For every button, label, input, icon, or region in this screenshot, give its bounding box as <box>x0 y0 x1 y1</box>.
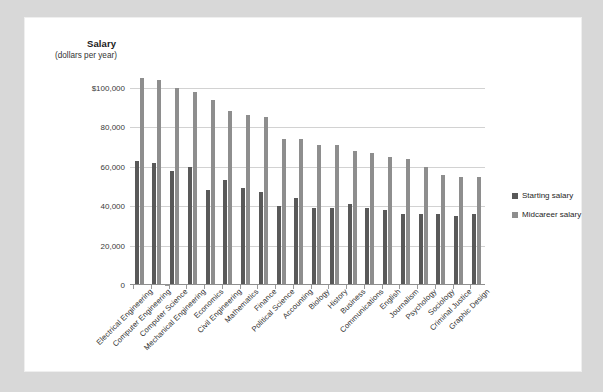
bar <box>424 167 428 285</box>
bar <box>264 117 268 285</box>
legend-item-midcareer-salary: Midcareer salary <box>512 210 603 219</box>
bar-group <box>275 68 293 285</box>
bar <box>312 208 316 285</box>
bar <box>175 88 179 285</box>
y-axis-tick-label: $100,000 <box>92 83 125 92</box>
legend-label: Starting salary <box>522 191 573 200</box>
legend-label: Midcareer salary <box>522 210 581 219</box>
legend-swatch-icon <box>512 212 518 218</box>
chart-card: Salary (dollars per year) $100,00080,000… <box>25 18 581 371</box>
bar-group <box>417 68 435 285</box>
bar <box>348 204 352 285</box>
bar <box>206 190 210 285</box>
bar <box>193 92 197 285</box>
bar <box>228 111 232 285</box>
chart-subtitle: (dollars per year) <box>55 51 117 60</box>
bar <box>436 214 440 285</box>
bar-group <box>169 68 187 285</box>
y-axis-tick-label: 20,000 <box>101 241 125 250</box>
chart-title: Salary <box>87 38 116 49</box>
bar-group <box>346 68 364 285</box>
bar <box>299 139 303 285</box>
bar <box>246 115 250 285</box>
legend-item-starting-salary: Starting salary <box>512 191 603 200</box>
bar <box>383 210 387 285</box>
y-axis-tick-label: 0 <box>121 281 125 290</box>
bar-group <box>470 68 488 285</box>
plot-area <box>130 68 485 285</box>
bar <box>241 188 245 285</box>
bar-group <box>133 68 151 285</box>
bar-group <box>435 68 453 285</box>
bar <box>282 139 286 285</box>
bar-group <box>204 68 222 285</box>
bar <box>477 177 481 286</box>
x-axis-labels: Electrical EngineeringComputer Engineeri… <box>130 287 500 387</box>
bar-group <box>186 68 204 285</box>
bar <box>170 171 174 285</box>
bar-group <box>293 68 311 285</box>
bar <box>401 214 405 285</box>
bar <box>472 214 476 285</box>
bar-group <box>328 68 346 285</box>
bar <box>353 151 357 285</box>
bars-layer <box>130 68 485 285</box>
bar <box>188 167 192 285</box>
bar <box>370 153 374 285</box>
bar <box>317 145 321 285</box>
bar <box>152 163 156 285</box>
bar <box>459 177 463 286</box>
bar <box>211 100 215 285</box>
bar-group <box>382 68 400 285</box>
y-axis-ticks: $100,00080,00060,00040,00020,0000 <box>65 68 125 285</box>
bar-group <box>151 68 169 285</box>
bar <box>135 161 139 285</box>
bar <box>335 145 339 285</box>
bar <box>419 214 423 285</box>
bar <box>277 206 281 285</box>
y-axis-tick-label: 80,000 <box>101 123 125 132</box>
bar <box>223 180 227 285</box>
bar <box>259 192 263 285</box>
bar <box>388 157 392 285</box>
bar <box>454 216 458 285</box>
y-axis-tick-label: 40,000 <box>101 202 125 211</box>
bar <box>441 175 445 285</box>
bar <box>406 159 410 285</box>
chart-legend: Starting salary Midcareer salary <box>512 191 603 229</box>
bar-group <box>257 68 275 285</box>
bar <box>140 78 144 285</box>
bar-group <box>399 68 417 285</box>
bar-group <box>222 68 240 285</box>
legend-swatch-icon <box>512 193 518 199</box>
bar <box>365 208 369 285</box>
bar-group <box>364 68 382 285</box>
x-axis-line <box>130 284 485 285</box>
bar <box>294 198 298 285</box>
bar-group <box>240 68 258 285</box>
bar-group <box>311 68 329 285</box>
bar-group <box>453 68 471 285</box>
y-axis-tick-label: 60,000 <box>101 162 125 171</box>
bar <box>330 208 334 285</box>
bar <box>157 80 161 285</box>
